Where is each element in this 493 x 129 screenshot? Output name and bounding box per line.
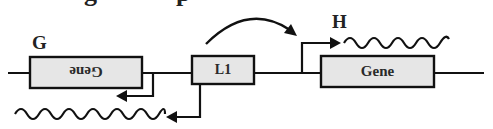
transcript-left-wavy-icon bbox=[15, 109, 165, 119]
curved-activation-arrow-icon bbox=[206, 19, 297, 44]
label-g: G bbox=[32, 33, 47, 52]
l1-label: L1 bbox=[192, 63, 254, 77]
gene-diagram: g p bbox=[0, 0, 493, 129]
label-h: H bbox=[332, 12, 347, 31]
promoter-l1-arrow-icon bbox=[166, 84, 200, 123]
gene-right-label: Gene bbox=[321, 64, 434, 79]
gene-left-label: Gene bbox=[30, 64, 142, 79]
transcript-right-wavy-icon bbox=[344, 37, 449, 48]
